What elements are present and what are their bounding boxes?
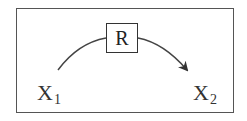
node-x2: X2 bbox=[193, 82, 217, 107]
arc-right bbox=[138, 38, 187, 70]
arc-left bbox=[58, 38, 106, 70]
diagram: R X1 X2 bbox=[0, 0, 247, 121]
node-x2-subscript: 2 bbox=[210, 92, 217, 107]
node-x2-label: X bbox=[193, 80, 209, 105]
node-x1-subscript: 1 bbox=[54, 92, 61, 107]
node-x1: X1 bbox=[37, 82, 61, 107]
node-r-label: R bbox=[115, 27, 128, 50]
node-r: R bbox=[106, 23, 138, 53]
node-x1-label: X bbox=[37, 80, 53, 105]
